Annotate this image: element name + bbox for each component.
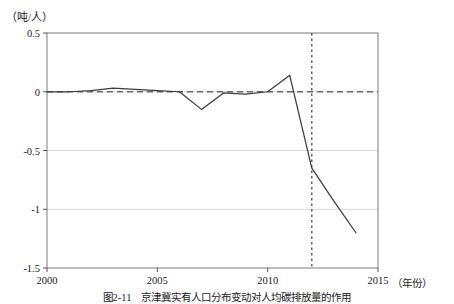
y-tick-label: -1 [0, 204, 40, 215]
x-tick-label: 2005 [147, 275, 168, 286]
x-tick-label: 2015 [368, 275, 389, 286]
y-tick-label: 0.5 [0, 28, 40, 39]
y-tick-label: 0 [0, 86, 40, 97]
x-axis-unit-label: （年份） [392, 275, 432, 290]
x-tick-label: 2010 [257, 275, 278, 286]
figure-caption: 图2-11 京津冀实有人口分布变动对人均碳排放量的作用 [0, 289, 454, 304]
y-tick-label: -1.5 [0, 263, 40, 274]
x-tick-label: 2000 [37, 275, 58, 286]
y-tick-label: -0.5 [0, 145, 40, 156]
